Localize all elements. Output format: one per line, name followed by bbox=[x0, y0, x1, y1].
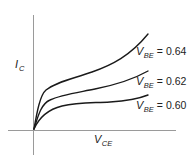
curve-label-vbe-064: VBE=0.64 bbox=[136, 45, 187, 60]
curve-label-vbe-060: VBE=0.60 bbox=[136, 99, 187, 114]
curve-vbe-064 bbox=[34, 34, 148, 129]
y-axis-label: IC bbox=[15, 58, 25, 73]
curve-label-vbe-062: VBE=0.62 bbox=[136, 75, 187, 90]
bjt-characteristics-diagram: IC VCE VBE=0.64 VBE=0.62 VBE=0.60 bbox=[0, 0, 193, 162]
x-axis-label: VCE bbox=[94, 133, 113, 148]
